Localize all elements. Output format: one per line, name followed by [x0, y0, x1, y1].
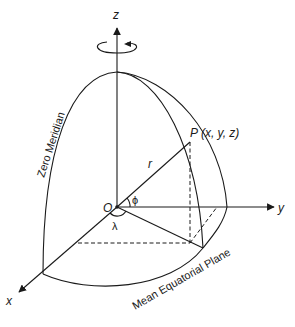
longitude-angle-arc — [110, 211, 126, 216]
longitude-label: λ — [112, 220, 118, 232]
y-axis-label: y — [277, 201, 285, 215]
origin-point — [115, 205, 119, 209]
z-axis-label: z — [112, 8, 119, 22]
radius-label: r — [148, 157, 153, 171]
latitude-label: ϕ — [132, 194, 138, 206]
equatorial-plane-label: Mean Equatorial Plane — [130, 246, 232, 312]
zero-meridian-curve — [43, 72, 117, 274]
y-projection-dashed-line — [190, 207, 217, 243]
x-axis — [19, 207, 117, 292]
radius-vector — [117, 142, 190, 207]
origin-label: O — [103, 201, 112, 215]
point-p-label: P (x, y, z) — [190, 126, 239, 140]
latitude-angle-arc — [127, 198, 130, 207]
zero-meridian-label: Zero Meridian — [34, 110, 66, 178]
spherical-coordinates-diagram: z y x O P (x, y, z) r ϕ λ Zero Meridian … — [0, 0, 295, 327]
x-axis-label: x — [5, 294, 13, 308]
